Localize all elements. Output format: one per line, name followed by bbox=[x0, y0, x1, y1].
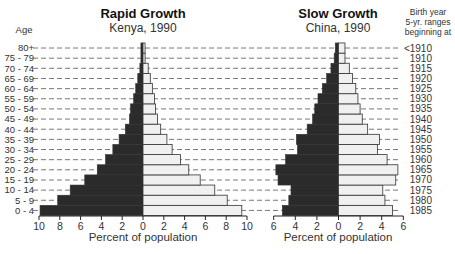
birth-year-label: 1985 bbox=[410, 205, 433, 216]
female-bar bbox=[339, 195, 385, 205]
male-bar bbox=[322, 84, 338, 94]
male-bar bbox=[286, 155, 339, 165]
age-label: 20 - 24 bbox=[4, 164, 34, 175]
female-bar bbox=[143, 124, 161, 134]
age-label: 40 - 44 bbox=[4, 124, 34, 135]
female-bar bbox=[339, 43, 345, 53]
female-bar bbox=[143, 63, 148, 73]
birth-year-label: 1950 bbox=[410, 134, 433, 145]
birth-year-label: <1910 bbox=[404, 43, 433, 54]
male-bar bbox=[85, 175, 143, 185]
male-bar bbox=[97, 165, 143, 175]
female-bar bbox=[143, 175, 200, 185]
male-bar bbox=[58, 195, 143, 205]
age-label: 60 - 64 bbox=[4, 83, 34, 94]
birth-year-label: 1945 bbox=[410, 124, 433, 135]
birth-year-label: 1910 bbox=[410, 53, 433, 64]
female-bar bbox=[143, 205, 242, 215]
female-bar bbox=[143, 53, 145, 63]
age-label: 50 - 54 bbox=[4, 103, 34, 114]
female-bar bbox=[143, 195, 227, 205]
age-label: 55 - 59 bbox=[4, 93, 34, 104]
male-bar bbox=[276, 165, 339, 175]
birth-year-label: 1960 bbox=[410, 154, 433, 165]
female-bar bbox=[143, 144, 172, 154]
male-bar bbox=[40, 205, 143, 215]
kenya-title: Rapid Growth bbox=[100, 6, 185, 21]
age-axis-header: Age bbox=[16, 24, 33, 35]
female-bar bbox=[339, 114, 363, 124]
female-bar bbox=[339, 104, 361, 114]
female-bar bbox=[143, 165, 189, 175]
male-bar bbox=[297, 144, 338, 154]
female-bar bbox=[339, 205, 393, 215]
female-bar bbox=[143, 185, 215, 195]
x-tick-label: 6 bbox=[400, 220, 406, 232]
x-tick-label: 6 bbox=[78, 220, 84, 232]
female-bar bbox=[339, 94, 358, 104]
male-bar bbox=[282, 205, 338, 215]
age-label: 45 - 49 bbox=[4, 113, 34, 124]
age-label: 80+ bbox=[18, 42, 35, 53]
birth-year-header-line-2: 5-yr. ranges bbox=[406, 17, 451, 27]
female-bar bbox=[143, 134, 167, 144]
x-tick-label: 6 bbox=[202, 220, 208, 232]
male-bar bbox=[291, 185, 339, 195]
age-label: 25 - 29 bbox=[4, 154, 34, 165]
female-bar bbox=[339, 165, 398, 175]
male-bar bbox=[278, 175, 338, 185]
male-bar bbox=[140, 63, 143, 73]
birth-year-label: 1925 bbox=[410, 83, 433, 94]
male-bar bbox=[70, 185, 143, 195]
male-bar bbox=[131, 104, 143, 114]
age-label: 75 - 79 bbox=[4, 52, 34, 63]
birth-year-label: 1970 bbox=[410, 174, 433, 185]
female-bar bbox=[143, 73, 150, 83]
male-bar bbox=[136, 84, 143, 94]
age-label: 15 - 19 bbox=[4, 174, 34, 185]
male-bar bbox=[315, 104, 339, 114]
x-tick-label: 10 bbox=[33, 220, 45, 232]
male-bar bbox=[331, 63, 339, 73]
male-bar bbox=[129, 114, 143, 124]
male-bar bbox=[289, 195, 339, 205]
male-bar bbox=[318, 94, 339, 104]
male-bar bbox=[134, 94, 143, 104]
male-bar bbox=[119, 134, 143, 144]
female-bar bbox=[339, 144, 378, 154]
birth-year-label: 1975 bbox=[410, 185, 433, 196]
male-bar bbox=[334, 53, 338, 63]
x-tick-label: 10 bbox=[241, 220, 253, 232]
china-x-axis: 6420246 bbox=[271, 216, 407, 232]
birth-year-label: 1920 bbox=[410, 73, 433, 84]
china-title: Slow Growth bbox=[298, 6, 378, 21]
female-bar bbox=[143, 84, 152, 94]
age-label: 5 - 9 bbox=[15, 195, 34, 206]
population-pyramids-chart: Rapid Growth Kenya, 1990 Slow Growth Chi… bbox=[0, 0, 455, 254]
female-bar bbox=[143, 114, 158, 124]
female-bar bbox=[339, 185, 383, 195]
kenya-subtitle: Kenya, 1990 bbox=[109, 21, 177, 35]
female-bar bbox=[339, 134, 380, 144]
birth-year-label: 1940 bbox=[410, 114, 433, 125]
female-bar bbox=[339, 84, 356, 94]
male-bar bbox=[313, 114, 339, 124]
china-x-axis-label: Percent of population bbox=[284, 231, 393, 243]
birth-year-labels: 1985198019751970196519601955195019451940… bbox=[404, 43, 433, 216]
birth-year-label: 1980 bbox=[410, 195, 433, 206]
female-bar bbox=[339, 175, 396, 185]
female-bar bbox=[143, 155, 180, 165]
female-bar bbox=[339, 53, 345, 63]
age-label: 0 - 4 bbox=[15, 205, 34, 216]
age-label: 30 - 34 bbox=[4, 144, 34, 155]
x-tick-label: 8 bbox=[223, 220, 229, 232]
birth-year-label: 1915 bbox=[410, 63, 433, 74]
female-bar bbox=[143, 94, 154, 104]
x-tick-label: 8 bbox=[57, 220, 63, 232]
china-subtitle: China, 1990 bbox=[306, 21, 371, 35]
female-bar bbox=[143, 104, 155, 114]
female-bar bbox=[339, 124, 368, 134]
male-bar bbox=[125, 124, 143, 134]
birth-year-label: 1935 bbox=[410, 103, 433, 114]
age-label: 70 - 74 bbox=[4, 63, 34, 74]
